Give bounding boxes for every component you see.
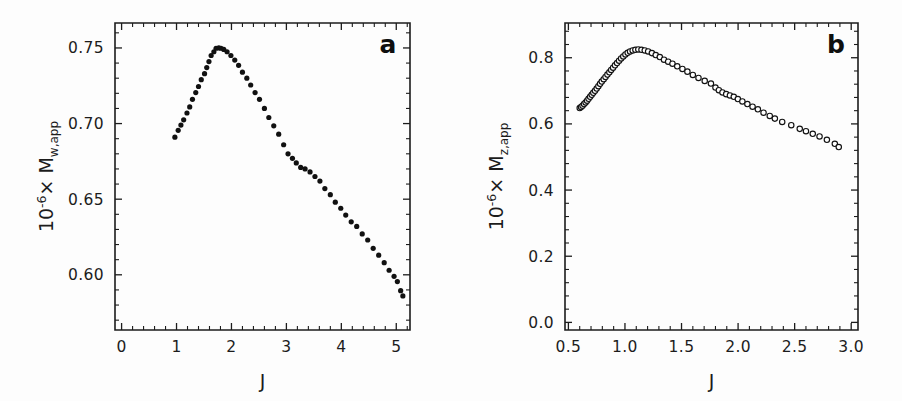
- data-point: [354, 224, 359, 229]
- data-point: [824, 137, 829, 142]
- data-point: [696, 75, 701, 80]
- x-axis-title: J: [259, 370, 266, 392]
- y-tick-label: 0.0: [528, 314, 554, 332]
- data-point: [193, 90, 198, 95]
- y-axis-title: 10-6×Mz,app: [484, 123, 511, 231]
- data-point: [202, 71, 207, 76]
- data-point: [281, 142, 286, 147]
- data-point: [767, 113, 772, 118]
- x-tick-label: 0: [116, 338, 126, 356]
- panel-letter: a: [380, 30, 397, 59]
- data-point: [196, 84, 201, 89]
- y-tick-label: 0.4: [528, 182, 554, 200]
- y-tick-label: 0.60: [68, 266, 104, 284]
- data-point: [338, 206, 343, 211]
- data-point: [333, 200, 338, 205]
- data-point: [772, 116, 777, 121]
- y-tick-label: 0.75: [68, 39, 104, 57]
- data-point: [307, 169, 312, 174]
- data-point: [836, 144, 841, 149]
- data-point: [178, 122, 183, 127]
- data-point: [184, 110, 189, 115]
- data-point: [382, 260, 387, 265]
- data-point: [176, 128, 181, 133]
- y-tick-label: 0.70: [68, 115, 104, 133]
- data-point: [817, 134, 822, 139]
- data-point: [190, 97, 195, 102]
- data-point: [365, 237, 370, 242]
- x-tick-label: 3: [281, 338, 291, 356]
- data-point: [244, 76, 249, 81]
- data-point: [206, 59, 211, 64]
- data-point: [780, 119, 785, 124]
- data-point: [317, 178, 322, 183]
- y-tick-label: 0.65: [68, 191, 104, 209]
- data-point: [232, 57, 237, 62]
- data-point: [294, 160, 299, 165]
- x-tick-label: 1: [171, 338, 181, 356]
- data-point: [391, 274, 396, 279]
- x-tick-label: 4: [336, 338, 346, 356]
- data-point: [172, 135, 177, 140]
- data-point: [750, 104, 755, 109]
- data-point: [328, 192, 333, 197]
- data-point: [387, 268, 392, 273]
- panel-b-plot: 0.51.01.52.02.53.00.00.20.40.60.8bJ10-6×…: [451, 0, 902, 401]
- data-point: [400, 293, 405, 298]
- data-point: [262, 106, 267, 111]
- data-point: [708, 81, 713, 86]
- x-tick-label: 2.0: [725, 338, 751, 356]
- y-tick-label: 0.2: [528, 248, 554, 266]
- svg-text:10-6×Mw,app: 10-6×Mw,app: [34, 121, 61, 232]
- x-tick-label: 1.5: [669, 338, 695, 356]
- panel-a-plot: 0123450.750.700.650.60aJ10-6×Mw,app: [0, 0, 451, 401]
- data-point: [276, 132, 281, 137]
- data-point: [322, 186, 327, 191]
- data-point: [248, 82, 253, 87]
- data-point: [761, 110, 766, 115]
- data-point: [312, 174, 317, 179]
- y-tick-label: 0.8: [528, 49, 554, 67]
- x-tick-label: 0.5: [555, 338, 581, 356]
- svg-text:10-6×Mz,app: 10-6×Mz,app: [484, 123, 511, 231]
- data-point: [181, 117, 186, 122]
- data-point: [755, 107, 760, 112]
- x-tick-label: 2.5: [782, 338, 808, 356]
- data-point: [371, 246, 376, 251]
- data-point: [797, 126, 802, 131]
- data-point: [266, 115, 271, 120]
- data-point: [398, 288, 403, 293]
- data-point: [204, 65, 209, 70]
- data-point: [360, 231, 365, 236]
- data-point: [285, 151, 290, 156]
- figure-root: 0123450.750.700.650.60aJ10-6×Mw,app 0.51…: [0, 0, 902, 401]
- data-point: [187, 104, 192, 109]
- data-point: [395, 279, 400, 284]
- panel-letter: b: [827, 30, 845, 59]
- data-series: [577, 47, 841, 150]
- panel-a: 0123450.750.700.650.60aJ10-6×Mw,app: [0, 0, 451, 401]
- y-axis-title: 10-6×Mw,app: [34, 121, 61, 232]
- data-point: [376, 253, 381, 258]
- data-point: [302, 166, 307, 171]
- x-tick-label: 2: [226, 338, 236, 356]
- data-point: [257, 97, 262, 102]
- data-point: [349, 219, 354, 224]
- data-point: [199, 77, 204, 82]
- data-point: [789, 123, 794, 128]
- data-point: [224, 49, 229, 54]
- data-point: [271, 123, 276, 128]
- y-tick-label: 0.6: [528, 115, 554, 133]
- data-point: [228, 53, 233, 58]
- data-point: [675, 64, 680, 69]
- x-tick-label: 3.0: [838, 338, 864, 356]
- data-point: [343, 212, 348, 217]
- data-point: [745, 101, 750, 106]
- data-series: [172, 45, 405, 298]
- data-point: [803, 128, 808, 133]
- x-axis-title: J: [708, 370, 715, 392]
- data-point: [810, 131, 815, 136]
- axis-frame: [115, 23, 410, 330]
- data-point: [690, 72, 695, 77]
- data-point: [290, 156, 295, 161]
